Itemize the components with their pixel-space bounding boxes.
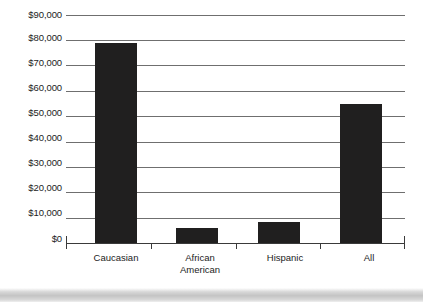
x-category-line: African (185, 252, 215, 263)
x-category-label-african-american: African American (154, 252, 246, 276)
x-axis-tick (236, 243, 237, 249)
y-tick-label: $20,000 (2, 183, 62, 193)
x-axis-tick (404, 243, 405, 249)
x-axis-tick (320, 243, 321, 249)
bar-all (340, 104, 382, 243)
x-category-label-caucasian: Caucasian (70, 252, 162, 264)
page-scan-edge-band (0, 288, 423, 302)
x-axis-tick (66, 243, 67, 249)
y-tick-label: $0 (2, 234, 62, 244)
y-axis-labels: $90,000 $80,000 $70,000 $60,000 $50,000 … (0, 0, 62, 302)
x-category-line: All (364, 252, 375, 263)
x-category-label-hispanic: Hispanic (239, 252, 331, 264)
bar-chart-figure: $90,000 $80,000 $70,000 $60,000 $50,000 … (0, 0, 423, 302)
bar-hispanic (258, 222, 300, 243)
gridline-80000 (66, 40, 405, 41)
x-category-line: American (154, 264, 246, 276)
x-category-line: Hispanic (267, 252, 303, 263)
y-tick-label: $70,000 (2, 58, 62, 68)
plot-area (66, 15, 405, 243)
bar-african-american (176, 228, 218, 243)
y-tick-label: $40,000 (2, 133, 62, 143)
y-tick-label: $80,000 (2, 33, 62, 43)
x-category-label-all: All (323, 252, 415, 264)
y-tick-label: $30,000 (2, 158, 62, 168)
x-category-line: Caucasian (94, 252, 139, 263)
y-tick-label: $50,000 (2, 108, 62, 118)
y-tick-label: $90,000 (2, 10, 62, 20)
x-axis-tick (151, 243, 152, 249)
gridline-90000 (66, 15, 405, 16)
y-tick-label: $10,000 (2, 208, 62, 218)
bar-caucasian (95, 43, 137, 243)
y-tick-label: $60,000 (2, 83, 62, 93)
